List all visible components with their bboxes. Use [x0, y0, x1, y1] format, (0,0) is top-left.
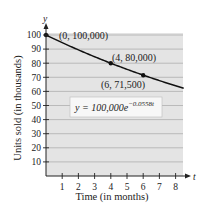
y-tick-label: 10: [32, 157, 42, 167]
data-point: [141, 73, 145, 77]
point-label-0: (0, 100,000): [59, 30, 108, 42]
x-tick-label: 8: [173, 182, 178, 192]
x-tick-label: 1: [60, 182, 65, 192]
y-tick-label: 50: [32, 101, 42, 111]
equation-base: y = 100,000e: [74, 102, 129, 113]
y-tick-label: 70: [32, 73, 42, 83]
y-axis-title: Units sold (in thousands): [12, 55, 24, 161]
point-label-2: (6, 71,500): [101, 79, 145, 91]
y-tick-label: 60: [32, 87, 42, 97]
point-label-1: (4, 80,000): [112, 52, 156, 64]
y-tick-label: 80: [32, 59, 42, 69]
chart: 12345678102030405060708090100 y = 100,00…: [0, 0, 200, 216]
x-axis-title: Time (in months): [75, 191, 149, 203]
y-tick-label: 100: [27, 30, 42, 40]
x-tick-label: 7: [157, 182, 162, 192]
x-axis-arrow-icon: [185, 174, 191, 179]
y-tick-label: 90: [32, 44, 42, 54]
y-tick-label: 30: [32, 129, 42, 139]
equation-exponent: −0.0558t: [128, 100, 155, 108]
y-tick-label: 40: [32, 115, 42, 125]
x-variable-label: t: [193, 172, 196, 182]
y-tick-label: 20: [32, 143, 42, 153]
y-variable-label: y: [42, 14, 48, 24]
